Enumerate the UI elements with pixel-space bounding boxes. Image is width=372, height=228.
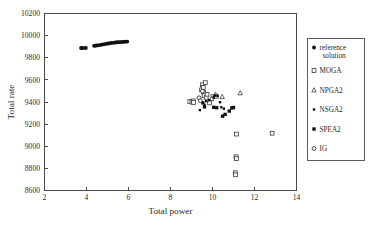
legend-marker-icon [313, 108, 315, 110]
legend-marker-icon [312, 147, 316, 151]
y-axis-title: Total rate [6, 85, 16, 120]
data-point [208, 99, 210, 101]
y-tick-label: 9200 [25, 120, 40, 129]
legend-label: IG [320, 145, 328, 153]
data-point [125, 40, 129, 44]
data-point [205, 100, 207, 102]
y-tick-label: 9600 [25, 76, 40, 85]
data-point [201, 85, 205, 89]
y-tick-label: 8600 [25, 186, 40, 195]
y-tick-label: 9000 [25, 142, 40, 151]
data-point [235, 157, 239, 161]
scatter-plot-figure: 8600880090009200940096009800100001020024… [0, 0, 372, 228]
x-tick-label: 14 [293, 193, 301, 202]
x-axis-title: Total power [148, 206, 192, 216]
data-point [238, 91, 242, 95]
legend-label: NPGA2 [320, 87, 344, 95]
x-tick-label: 6 [127, 193, 131, 202]
series-moga [188, 81, 274, 177]
legend-marker-icon [312, 127, 315, 130]
data-point [203, 105, 206, 108]
data-point [219, 101, 221, 103]
data-point [228, 109, 231, 112]
y-tick-label: 8800 [25, 164, 40, 173]
data-point [212, 106, 215, 109]
data-point [235, 132, 239, 136]
data-point [208, 101, 212, 105]
chart-legend: referencesolutionMOGANPGA2NSGA2SPEA2IG [308, 39, 365, 161]
y-tick-label: 9800 [25, 53, 40, 62]
data-point [223, 113, 226, 116]
y-tick-label: 9400 [25, 98, 40, 107]
data-points-group [79, 40, 274, 177]
axes-group: 8600880090009200940096009800100001020024… [6, 9, 301, 215]
data-point [215, 106, 218, 109]
x-tick-label: 12 [251, 193, 259, 202]
series-spea2 [201, 101, 235, 118]
x-tick-label: 10 [209, 193, 217, 202]
data-point [223, 107, 225, 109]
data-point [214, 94, 216, 96]
legend-label: SPEA2 [320, 126, 342, 134]
legend-label: NSGA2 [320, 106, 344, 114]
plot-canvas: 8600880090009200940096009800100001020024… [0, 0, 372, 228]
y-tick-label: 10000 [21, 31, 40, 40]
plot-frame [45, 14, 297, 191]
y-tick-label: 10200 [21, 9, 40, 18]
data-point [203, 81, 207, 85]
data-point [220, 94, 224, 98]
x-tick-label: 2 [43, 193, 47, 202]
data-point [199, 109, 201, 111]
data-point [205, 92, 209, 96]
data-point [220, 106, 222, 108]
legend-label: MOGA [320, 67, 343, 75]
x-tick-label: 4 [85, 193, 89, 202]
data-point [201, 89, 205, 93]
data-point [216, 95, 218, 97]
legend-marker-icon [312, 69, 316, 73]
data-point [198, 99, 202, 103]
legend-label-line2: solution [323, 52, 347, 60]
data-point [192, 101, 196, 105]
legend-label: reference [320, 44, 347, 52]
data-point [270, 131, 274, 135]
data-point [234, 173, 238, 177]
data-point [84, 46, 88, 50]
data-point [232, 106, 235, 109]
series-reference-solution [79, 40, 129, 50]
legend-marker-icon [312, 46, 316, 50]
x-tick-label: 8 [169, 193, 173, 202]
